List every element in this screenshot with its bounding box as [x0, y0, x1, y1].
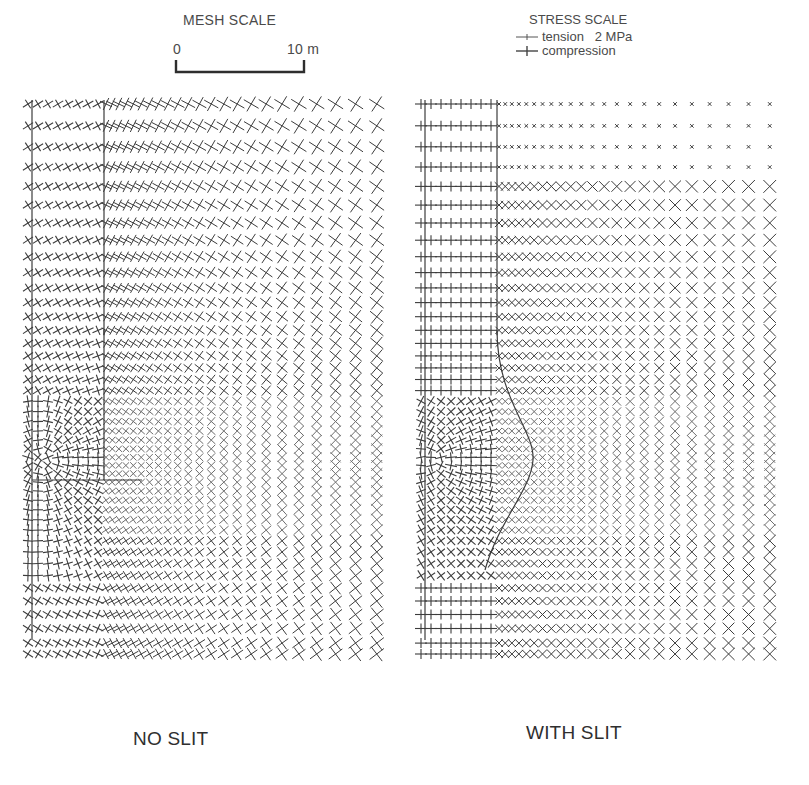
stress-scale-legend: tension 2 MPa compression — [516, 30, 632, 58]
legend-label-tension: tension 2 MPa — [542, 30, 632, 44]
panel-label-with-slit: WITH SLIT — [526, 722, 622, 744]
legend-label-compression: compression — [542, 44, 616, 58]
legend-item-compression: compression — [516, 44, 632, 58]
stress-scale-title: STRESS SCALE — [529, 12, 627, 27]
panel-label-no-slit: NO SLIT — [133, 728, 208, 750]
mesh-scale-bar — [174, 60, 314, 80]
tension-symbol-icon — [516, 32, 538, 42]
stress-field-no-slit — [22, 100, 402, 660]
stress-field-with-slit — [415, 100, 795, 660]
legend-item-tension: tension 2 MPa — [516, 30, 632, 44]
mesh-scale-title: MESH SCALE — [183, 12, 276, 28]
mesh-scale-end-label: 10 m — [287, 41, 319, 57]
compression-symbol-icon — [516, 46, 538, 56]
mesh-scale-start-label: 0 — [173, 41, 181, 57]
